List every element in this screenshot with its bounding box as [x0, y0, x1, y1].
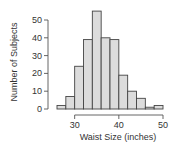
histogram-bar — [119, 75, 128, 109]
histogram-bar — [84, 40, 93, 109]
y-tick-label: 10 — [32, 86, 42, 96]
histogram-bars — [57, 11, 163, 109]
y-axis-title: Number of Subjects — [9, 22, 19, 102]
y-tick-label: 50 — [32, 15, 42, 25]
histogram-bar — [101, 38, 110, 109]
y-tick-label: 40 — [32, 33, 42, 43]
histogram-bar — [145, 107, 154, 109]
histogram-bar — [128, 91, 137, 109]
x-tick-label: 50 — [158, 120, 168, 130]
x-axis: 304050 — [70, 115, 168, 130]
histogram-bar — [57, 105, 66, 109]
y-axis: 01020304050 — [32, 15, 48, 114]
x-tick-label: 30 — [70, 120, 80, 130]
y-tick-label: 20 — [32, 68, 42, 78]
y-tick-label: 0 — [37, 104, 42, 114]
histogram-chart: 01020304050 304050 Number of Subjects Wa… — [0, 0, 175, 150]
histogram-bar — [92, 11, 101, 109]
x-tick-label: 40 — [114, 120, 124, 130]
y-tick-label: 30 — [32, 51, 42, 61]
histogram-bar — [137, 98, 146, 109]
histogram-bar — [75, 66, 84, 109]
histogram-bar — [110, 40, 119, 109]
histogram-bar — [66, 97, 75, 109]
x-axis-title: Waist Size (inches) — [80, 132, 157, 142]
histogram-bar — [154, 105, 163, 109]
